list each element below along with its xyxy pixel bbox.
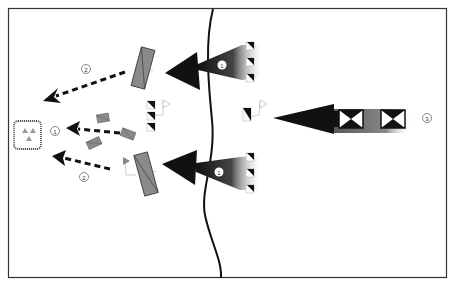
hourglass-unit-1 [339, 110, 363, 128]
label-circle-2-south: 2 [80, 173, 89, 182]
withdraw-arrow-center [66, 121, 120, 136]
unit-with-flag-right [243, 100, 267, 121]
unit-small-3 [86, 136, 102, 149]
unit-small-1 [96, 113, 109, 123]
diagram-svg: 1 2 [0, 0, 453, 287]
unit-column-center [147, 100, 170, 131]
enemy-positions-north [246, 42, 254, 82]
unit-small-2 [120, 128, 136, 140]
withdraw-arrow-south [52, 150, 110, 169]
flag-south [123, 157, 136, 175]
flag-icon [123, 157, 130, 165]
enemy-positions-south [246, 153, 254, 193]
flag-icon [163, 100, 170, 108]
main-attack-north-arrow: 1 [165, 45, 262, 90]
diagram-canvas: 1 2 [0, 0, 453, 287]
unit-block-south [134, 151, 161, 196]
flag-icon [260, 100, 267, 108]
objective-box [14, 121, 41, 149]
reserve-attack-arrow [273, 104, 410, 134]
front-line-curve [204, 9, 221, 278]
label-circle-3: 3 [423, 114, 432, 123]
unit-block-north [131, 47, 158, 90]
hourglass-unit-2 [381, 110, 405, 128]
diagram-frame [9, 9, 447, 278]
withdraw-arrow-north [43, 72, 125, 103]
label-circle-2-center: 1 [51, 127, 60, 136]
label-circle-2-north: 2 [82, 65, 91, 74]
